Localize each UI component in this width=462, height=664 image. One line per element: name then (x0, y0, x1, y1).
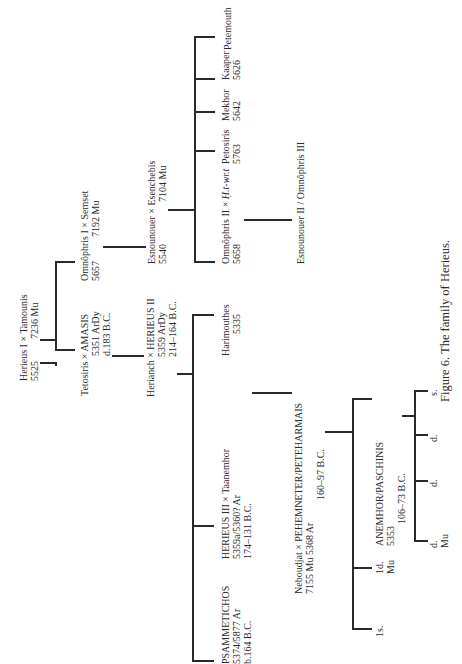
figure-caption: Figure 6. The family of Herieus. (438, 240, 453, 402)
tick-petemouth (194, 36, 215, 38)
connector-tetosiris-line (112, 355, 140, 357)
tick-1d (352, 567, 372, 569)
gen1-sibling-bar (55, 261, 57, 351)
person-tetosiris-amasis: Tetosiris × AMASIS 5351 ArDy d.183 B.C. (79, 311, 112, 396)
connector-herieus-ii (177, 373, 193, 375)
tick-kaaper (194, 78, 215, 80)
person-petosiris: Petosiris 5763 (220, 130, 242, 164)
person-pehemneter: Neboudjat × PEHEMNETER/PETEHARMAIS 7155 … (293, 403, 326, 594)
person-anemhor: ANEMHOR/PASCHINIS 5353 106–73 B.C. (374, 442, 407, 546)
pehemneter-children-bar (352, 398, 354, 630)
person-son-1: 1s. (374, 626, 385, 637)
herieus-ii-children-bar (192, 314, 194, 662)
person-kaaper: Kaaper 5626 (220, 51, 242, 80)
connector-omnophris-ii-line (244, 219, 292, 221)
person-esnounouer-ii: Esnounouer II / Omnôphris III (295, 142, 306, 264)
person-mekhor: Mekhor 5642 (220, 89, 242, 121)
connector-esnounouer (168, 209, 194, 211)
tick-harimouthes (192, 314, 214, 316)
tick-psammetichos (192, 660, 214, 662)
person-daughter-1: 1d. Mu (374, 560, 396, 574)
person-granddaughter-3: d. (428, 435, 439, 443)
anemhor-children-bar (414, 390, 416, 542)
connector-herieus-iii-line (252, 392, 292, 394)
connector-pehemneter (325, 431, 352, 433)
person-petemouth: Petemouth (222, 7, 233, 50)
gen1-tick-omnophris (55, 261, 75, 263)
tick-gc-d1 (414, 540, 428, 542)
tick-gc-s (414, 390, 428, 392)
caption-text: The family of Herieus. (438, 240, 452, 354)
person-esnounouer: Esnounouer × Esenchebis 55407104 Mu (146, 161, 168, 264)
caption-prefix: Figure 6. (438, 357, 452, 402)
tick-herieus-iii (192, 525, 214, 527)
connector-anemhor-line (402, 415, 414, 417)
tick-anemhor (352, 398, 372, 400)
person-herieus-i: Herieus I × Tamounis 55257236 Mu (18, 294, 40, 381)
person-harimouthes: Harimouthes 5335 (220, 304, 242, 356)
gen1-parent-link (40, 339, 55, 341)
person-omnophris-ii: Omnôphris II × Ḥ.t-wr.t 5658 (220, 169, 242, 264)
tick-gc-d2 (414, 480, 428, 482)
tick-mekhor (194, 111, 215, 113)
tick-gc-d3 (414, 434, 428, 436)
person-granddaughter-2: d. (428, 480, 439, 488)
connector-omnophris-i (103, 246, 146, 248)
person-psammetichos: PSAMMETICHOS 5374/5877 Ar b.164 B.C. (220, 586, 253, 664)
family-tree-figure: Herieus I × Tamounis 55257236 Mu Tetosir… (0, 0, 462, 664)
person-herieus-ii: Herianch × HERIEUS II 5359 ArDy 214–164 … (145, 298, 178, 397)
person-herieus-iii: HERIEUS III × Taanemhor 5359a/5360? Ar 1… (220, 449, 253, 559)
person-omnophris-i: Omnôphris I × Semset 56577192 Mu (79, 191, 101, 281)
gen1-tick-tetosiris (55, 349, 75, 351)
tick-omnophris-ii (194, 261, 215, 263)
tick-1s (352, 628, 372, 630)
person-granddaughter-1: d. Mu (428, 534, 450, 548)
tick-petosiris (194, 150, 215, 152)
